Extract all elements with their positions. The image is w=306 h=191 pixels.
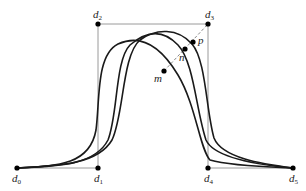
label-n: n [179, 51, 185, 63]
point-d5 [290, 165, 295, 170]
point-m [161, 68, 166, 73]
point-d4 [205, 165, 210, 170]
point-p [190, 39, 195, 44]
label-d1: d1 [94, 172, 104, 186]
point-d2 [95, 21, 100, 26]
point-d3 [205, 21, 210, 26]
control-polygon [17, 24, 293, 168]
label-p: p [197, 34, 204, 46]
label-d2: d2 [93, 8, 103, 22]
label-d4: d4 [204, 172, 214, 186]
label-d0: d0 [12, 172, 22, 186]
label-d3: d3 [205, 8, 215, 22]
curve-2 [17, 34, 293, 168]
spline-diagram: d0d1d2d3d4d5mnp [0, 0, 306, 191]
point-d1 [95, 165, 100, 170]
curve-3 [17, 31, 293, 168]
label-m: m [154, 72, 162, 84]
point-d0 [14, 165, 19, 170]
label-d5: d5 [289, 172, 299, 186]
curve-1 [17, 40, 293, 168]
